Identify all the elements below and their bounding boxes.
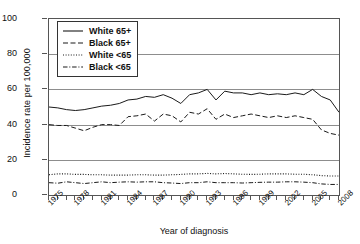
legend-label: White <65 xyxy=(89,50,131,60)
y-axis-tick-mark xyxy=(42,159,47,160)
y-axis-tick-mark xyxy=(42,18,47,19)
x-axis-tick-mark xyxy=(250,196,251,200)
x-axis-tick-mark xyxy=(303,196,304,200)
legend-label: Black 65+ xyxy=(89,38,131,48)
x-axis-tick-mark xyxy=(66,196,67,200)
x-axis-tick-mark xyxy=(118,196,119,200)
y-axis-tick-label: 60 xyxy=(0,83,17,93)
y-axis-tick-mark xyxy=(42,194,47,195)
y-axis-tick-label: 80 xyxy=(0,48,17,58)
series-line xyxy=(49,109,339,135)
x-axis-title: Year of diagnosis xyxy=(48,226,340,236)
y-axis-title: Incidence rate per 100,000 xyxy=(22,18,32,188)
y-axis-tick-mark xyxy=(42,88,47,89)
incidence-rate-line-chart: Incidence rate per 100,000 020406080100 … xyxy=(0,0,360,244)
legend-line-swatch xyxy=(62,50,84,60)
series-line xyxy=(49,182,339,185)
x-axis-tick-mark xyxy=(197,196,198,200)
legend-label: Black <65 xyxy=(89,62,131,72)
x-axis-tick-mark xyxy=(92,196,93,200)
y-axis-tick-label: 100 xyxy=(0,13,17,23)
legend-line-swatch xyxy=(62,26,84,36)
legend-item: White 65+ xyxy=(62,25,131,37)
x-axis-tick-mark xyxy=(171,196,172,200)
y-axis-tick-mark xyxy=(42,124,47,125)
y-axis-tick-label: 40 xyxy=(0,119,17,129)
legend-item: Black <65 xyxy=(62,61,131,73)
series-line xyxy=(49,173,339,176)
x-axis-tick-mark xyxy=(224,196,225,200)
legend-line-swatch xyxy=(62,62,84,72)
y-axis-tick-label: 0 xyxy=(0,189,17,199)
series-line xyxy=(49,89,339,112)
legend-item: Black 65+ xyxy=(62,37,131,49)
y-axis-tick-label: 20 xyxy=(0,154,17,164)
x-axis-tick-mark xyxy=(329,196,330,200)
legend: White 65+Black 65+White <65Black <65 xyxy=(57,21,138,77)
y-axis-tick-mark xyxy=(42,53,47,54)
legend-line-swatch xyxy=(62,38,84,48)
x-axis-tick-mark xyxy=(145,196,146,200)
legend-item: White <65 xyxy=(62,49,131,61)
x-axis-tick-mark xyxy=(276,196,277,200)
legend-label: White 65+ xyxy=(89,26,131,36)
